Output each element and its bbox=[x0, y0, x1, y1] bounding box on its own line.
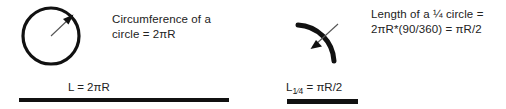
quarter-arc-caption-line-2: 2πR*(90/360) = πR/2 bbox=[371, 22, 483, 37]
circumference-result-prefix: L = bbox=[68, 81, 87, 93]
quarter-arc-result-value: = πR/2 bbox=[303, 81, 342, 93]
circumference-result-label: L = 2πR bbox=[68, 80, 110, 94]
quarter-arc-caption-line-1: Length of a ¼ circle = bbox=[371, 7, 483, 22]
circle-with-radius-icon bbox=[20, 5, 85, 70]
panel-circumference: Circumference of a circle = 2πR L = 2πR bbox=[0, 0, 253, 109]
quarter-arc-caption: Length of a ¼ circle = 2πR*(90/360) = πR… bbox=[371, 7, 483, 36]
circumference-caption-line-2: circle = 2πR bbox=[112, 27, 211, 42]
pointer-arrowhead-icon bbox=[311, 40, 323, 49]
circumference-length-rule bbox=[19, 98, 229, 102]
quarter-arc-result-label: L1⁄4 = πR/2 bbox=[286, 80, 342, 98]
quarter-arc-result-subscript: 1⁄4 bbox=[292, 86, 303, 96]
quarter-arc-with-pointer-icon bbox=[293, 17, 353, 72]
circumference-result-value: 2πR bbox=[87, 81, 110, 93]
quarter-arc-length-rule bbox=[287, 99, 358, 104]
panel-quarter-arc: Length of a ¼ circle = 2πR*(90/360) = πR… bbox=[253, 0, 506, 109]
circumference-caption: Circumference of a circle = 2πR bbox=[112, 12, 211, 41]
circumference-caption-line-1: Circumference of a bbox=[112, 12, 211, 27]
geometry-diagram: Circumference of a circle = 2πR L = 2πR … bbox=[0, 0, 506, 109]
